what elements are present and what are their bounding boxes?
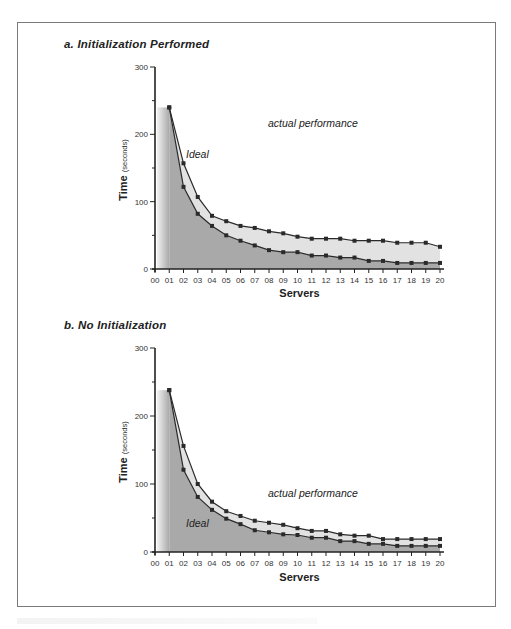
data-point-marker: [296, 533, 300, 537]
data-point-marker: [353, 239, 357, 243]
data-point-marker: [167, 388, 171, 392]
chart-panel-a: 0100200300000102030405060708091011121314…: [117, 63, 445, 299]
x-tick-label: 10: [293, 559, 302, 568]
data-point-marker: [410, 261, 414, 265]
data-point-marker: [239, 224, 243, 228]
data-point-marker: [253, 243, 257, 247]
data-point-marker: [210, 500, 214, 504]
data-point-marker: [182, 468, 186, 472]
data-point-marker: [310, 237, 314, 241]
x-tick-label: 09: [279, 559, 288, 568]
data-point-marker: [438, 544, 442, 548]
y-tick-label: 100: [135, 198, 149, 207]
x-tick-label: 13: [336, 559, 345, 568]
data-point-marker: [353, 539, 357, 543]
x-tick-label: 04: [208, 559, 217, 568]
x-tick-label: 10: [293, 276, 302, 285]
data-point-marker: [438, 537, 442, 541]
data-point-marker: [267, 229, 271, 233]
data-point-marker: [224, 219, 228, 223]
data-point-marker: [367, 542, 371, 546]
x-tick-label: 05: [222, 276, 231, 285]
data-point-marker: [367, 259, 371, 263]
charts-canvas: 0100200300000102030405060708091011121314…: [0, 0, 511, 629]
data-point-marker: [167, 105, 171, 109]
x-axis-title: Servers: [279, 287, 319, 299]
data-point-marker: [253, 226, 257, 230]
data-point-marker: [438, 261, 442, 265]
x-tick-label: 17: [393, 559, 402, 568]
data-point-marker: [424, 537, 428, 541]
data-point-marker: [410, 241, 414, 245]
data-point-marker: [196, 195, 200, 199]
data-point-marker: [353, 534, 357, 538]
data-point-marker: [353, 256, 357, 260]
x-tick-label: 02: [179, 559, 188, 568]
x-tick-label: 06: [236, 559, 245, 568]
data-point-marker: [210, 214, 214, 218]
data-point-marker: [281, 523, 285, 527]
x-tick-label: 02: [179, 276, 188, 285]
y-tick-label: 0: [144, 265, 149, 274]
x-tick-label: 20: [436, 559, 445, 568]
data-point-marker: [381, 542, 385, 546]
data-point-marker: [395, 261, 399, 265]
data-point-marker: [338, 237, 342, 241]
x-tick-label: 17: [393, 276, 402, 285]
data-point-marker: [424, 261, 428, 265]
data-point-marker: [424, 241, 428, 245]
data-point-marker: [381, 537, 385, 541]
data-point-marker: [281, 231, 285, 235]
y-tick-label: 200: [135, 130, 149, 139]
x-tick-label: 00: [151, 559, 160, 568]
data-point-marker: [310, 254, 314, 258]
data-point-marker: [395, 241, 399, 245]
data-point-marker: [395, 544, 399, 548]
x-tick-label: 12: [322, 559, 331, 568]
data-point-marker: [296, 250, 300, 254]
data-point-marker: [367, 534, 371, 538]
data-point-marker: [267, 530, 271, 534]
x-tick-label: 18: [407, 276, 416, 285]
data-point-marker: [182, 444, 186, 448]
x-tick-label: 07: [250, 559, 259, 568]
data-point-marker: [324, 529, 328, 533]
x-tick-label: 13: [336, 276, 345, 285]
x-tick-label: 19: [421, 559, 430, 568]
data-point-marker: [338, 256, 342, 260]
ideal-label: Ideal: [186, 517, 209, 529]
data-point-marker: [196, 212, 200, 216]
x-tick-label: 18: [407, 559, 416, 568]
x-tick-label: 08: [265, 276, 274, 285]
y-tick-label: 100: [135, 480, 149, 489]
data-point-marker: [395, 537, 399, 541]
x-tick-label: 16: [379, 559, 388, 568]
x-tick-label: 15: [364, 559, 373, 568]
data-point-marker: [239, 239, 243, 243]
data-point-marker: [410, 537, 414, 541]
data-point-marker: [310, 529, 314, 533]
x-tick-label: 15: [364, 276, 373, 285]
data-point-marker: [196, 482, 200, 486]
data-point-marker: [296, 235, 300, 239]
x-tick-label: 04: [208, 276, 217, 285]
x-tick-label: 14: [350, 276, 359, 285]
data-point-marker: [224, 233, 228, 237]
figure-caption-faded: [17, 618, 317, 624]
x-tick-label: 16: [379, 276, 388, 285]
data-point-marker: [253, 519, 257, 523]
x-tick-label: 20: [436, 276, 445, 285]
x-axis-title: Servers: [279, 571, 319, 583]
data-point-marker: [210, 508, 214, 512]
ideal-area: [169, 390, 440, 552]
data-point-marker: [267, 521, 271, 525]
data-point-marker: [267, 248, 271, 252]
data-point-marker: [424, 544, 428, 548]
data-point-marker: [324, 254, 328, 258]
x-tick-label: 06: [236, 276, 245, 285]
x-tick-label: 19: [421, 276, 430, 285]
x-tick-label: 09: [279, 276, 288, 285]
x-tick-label: 01: [165, 559, 174, 568]
data-point-marker: [438, 245, 442, 249]
data-point-marker: [210, 224, 214, 228]
